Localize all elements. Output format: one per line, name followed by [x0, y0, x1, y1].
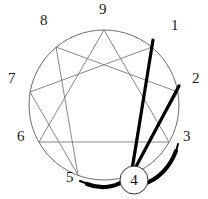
enneagram-highlight-edges [131, 40, 179, 176]
enneagram-diagram: 9 1 2 3 5 6 7 8 4 [0, 0, 208, 199]
hexad-edge-7-1 [30, 47, 152, 92]
enneagram-inner-triangle [39, 30, 169, 142]
node-label-5[interactable]: 5 [66, 170, 74, 185]
enneagram-hexad [30, 47, 178, 175]
node-label-6[interactable]: 6 [17, 129, 25, 144]
arc-4-to-5-taper [80, 181, 88, 184]
node-label-1[interactable]: 1 [171, 18, 179, 33]
node-label-7[interactable]: 7 [8, 71, 16, 86]
enneagram-outer-circle [29, 30, 179, 180]
node-label-9[interactable]: 9 [99, 2, 107, 17]
node-label-2[interactable]: 2 [192, 71, 200, 86]
arc-4-to-5 [87, 181, 124, 187]
node-label-3[interactable]: 3 [183, 129, 191, 144]
hexad-edge-2-8 [56, 47, 178, 92]
node-label-4[interactable]: 4 [128, 173, 140, 188]
node-label-8[interactable]: 8 [40, 13, 48, 28]
